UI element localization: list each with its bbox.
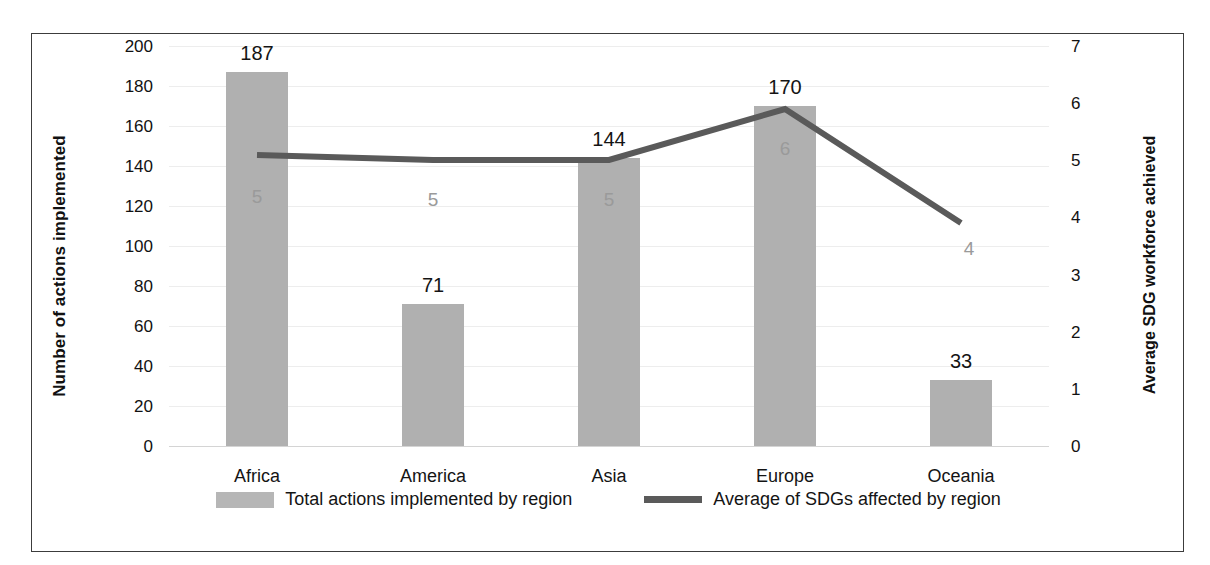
chart-frame: Number of actions implemented Average SD…	[31, 33, 1184, 552]
bar-value-label: 33	[906, 350, 1016, 373]
y-axis-left-tick: 200	[99, 38, 153, 55]
y-axis-right-tick: 3	[1071, 267, 1125, 284]
y-axis-left-tick: 20	[99, 398, 153, 415]
axis-baseline	[169, 446, 1049, 447]
legend-line-swatch-icon	[644, 496, 702, 503]
y-axis-left-tick: 100	[99, 238, 153, 255]
line-value-label: 5	[579, 189, 639, 211]
y-axis-right-tick: 2	[1071, 324, 1125, 341]
y-axis-right-tick: 1	[1071, 381, 1125, 398]
x-axis-label-africa: Africa	[177, 466, 337, 487]
y-axis-left-tick: 120	[99, 198, 153, 215]
y-axis-right-title: Average SDG workforce achieved	[1141, 100, 1159, 430]
y-axis-right-tick: 7	[1071, 38, 1125, 55]
bar-value-label: 71	[378, 274, 488, 297]
y-axis-left-tick: 60	[99, 318, 153, 335]
x-axis-label-europe: Europe	[705, 466, 865, 487]
chart-legend: Total actions implemented by region Aver…	[32, 489, 1185, 510]
gridline	[169, 126, 1049, 127]
legend-line-label: Average of SDGs affected by region	[713, 489, 1001, 510]
bar-value-label: 170	[730, 76, 840, 99]
y-axis-right-tick: 6	[1071, 95, 1125, 112]
bar-africa[interactable]	[226, 72, 288, 446]
legend-bar-label: Total actions implemented by region	[285, 489, 572, 510]
x-axis-label-america: America	[353, 466, 513, 487]
bar-america[interactable]	[402, 304, 464, 446]
bar-oceania[interactable]	[930, 380, 992, 446]
y-axis-left-tick: 160	[99, 118, 153, 135]
x-axis-label-asia: Asia	[529, 466, 689, 487]
plot-area: 200 180 160 140 120 100 80 60 40 20 0 7 …	[169, 46, 1049, 446]
y-axis-left-tick: 180	[99, 78, 153, 95]
legend-bar-swatch-icon	[216, 492, 274, 508]
line-value-label: 5	[227, 186, 287, 208]
legend-item-line[interactable]: Average of SDGs affected by region	[644, 489, 1001, 510]
line-value-label: 6	[755, 138, 815, 160]
y-axis-left-tick: 0	[99, 438, 153, 455]
legend-item-bars[interactable]: Total actions implemented by region	[216, 489, 572, 510]
y-axis-left-tick: 40	[99, 358, 153, 375]
bar-value-label: 144	[554, 128, 664, 151]
line-value-label: 5	[403, 189, 463, 211]
y-axis-right-tick: 5	[1071, 152, 1125, 169]
y-axis-right-tick: 4	[1071, 209, 1125, 226]
line-value-label: 4	[939, 238, 999, 260]
x-axis-label-oceania: Oceania	[881, 466, 1041, 487]
gridline	[169, 86, 1049, 87]
y-axis-left-tick: 140	[99, 158, 153, 175]
y-axis-right-tick: 0	[1071, 438, 1125, 455]
y-axis-left-title: Number of actions implemented	[50, 101, 70, 431]
y-axis-left-tick: 80	[99, 278, 153, 295]
bar-value-label: 187	[202, 42, 312, 65]
